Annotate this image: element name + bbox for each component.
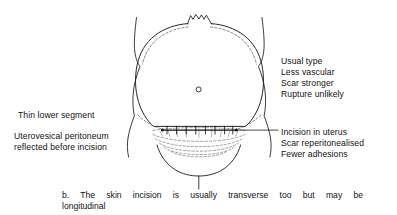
suture-end-left — [161, 129, 164, 132]
annotation-advantages: Usual type Less vascular Scar stronger R… — [281, 56, 344, 100]
figure-caption: b. The skin incision is usually transver… — [62, 190, 363, 212]
annotation-line-incision-in-uterus: Incision in uterus — [281, 127, 364, 138]
annotation-thin-lower-segment: Thin lower segment — [18, 110, 95, 121]
annotation-line-usual-type: Usual type — [281, 56, 344, 67]
uterus-outline — [136, 24, 264, 127]
anatomical-line-drawing — [0, 0, 397, 215]
annotation-line-scar-reperitonealised: Scar reperitonealised — [281, 138, 364, 149]
pubic-curve — [157, 145, 241, 176]
left-flank-outline — [127, 18, 140, 158]
annotation-line-uterovesical-peritoneum: Uterovesical peritoneum — [14, 131, 109, 142]
annotation-line-thin-lower-segment: Thin lower segment — [18, 110, 95, 121]
xiphoid-notch — [188, 14, 212, 24]
annotation-line-rupture-unlikely: Rupture unlikely — [281, 89, 344, 100]
dashed-inner-contour-left — [142, 27, 188, 64]
annotation-peritoneum: Uterovesical peritoneum reflected before… — [14, 131, 109, 153]
right-flank-outline — [259, 18, 272, 158]
dashed-inner-contour-right — [211, 27, 257, 64]
caption-line-1: b. The skin incision is usually transver… — [62, 190, 363, 201]
figure-page: Usual type Less vascular Scar stronger R… — [0, 0, 397, 215]
annotation-line-scar-stronger: Scar stronger — [281, 78, 344, 89]
annotation-line-fewer-adhesions: Fewer adhesions — [281, 149, 364, 160]
annotation-line-reflected-before-incision: reflected before incision — [14, 142, 109, 153]
caption-line-2: longitudinal — [62, 201, 363, 212]
annotation-incision-notes: Incision in uterus Scar reperitonealised… — [281, 127, 364, 160]
annotation-line-less-vascular: Less vascular — [281, 67, 344, 78]
umbilicus-icon — [196, 87, 201, 92]
